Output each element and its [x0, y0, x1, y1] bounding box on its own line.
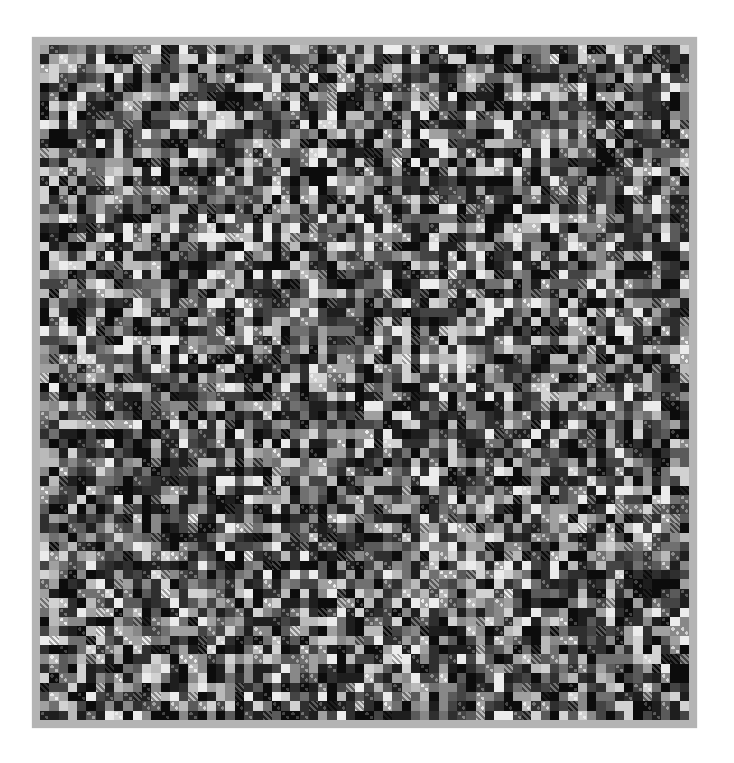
quilt-patch [513, 542, 522, 551]
quilt-patch [568, 73, 577, 82]
quilt-patch [49, 233, 58, 242]
quilt-patch [402, 411, 411, 420]
quilt-patch [485, 373, 494, 382]
quilt-patch [179, 439, 188, 448]
quilt-patch [392, 345, 401, 354]
quilt-patch [170, 83, 179, 92]
quilt-patch [327, 317, 336, 326]
quilt-patch [68, 411, 77, 420]
quilt-patch [652, 373, 661, 382]
quilt-patch [374, 345, 383, 354]
quilt-patch [643, 692, 652, 701]
quilt-patch [541, 392, 550, 401]
quilt-patch [105, 523, 114, 532]
quilt-patch [96, 139, 105, 148]
quilt-patch [643, 298, 652, 307]
quilt-patch [411, 186, 420, 195]
quilt-patch [420, 308, 429, 317]
quilt-patch [661, 139, 670, 148]
quilt-patch [383, 111, 392, 120]
quilt-patch [392, 411, 401, 420]
quilt-patch [606, 579, 615, 588]
quilt-patch [392, 608, 401, 617]
quilt-patch [59, 167, 68, 176]
quilt-patch [606, 495, 615, 504]
quilt-patch [383, 289, 392, 298]
quilt-patch [448, 336, 457, 345]
quilt-patch [272, 551, 281, 560]
quilt-patch [439, 636, 448, 645]
quilt-patch [643, 429, 652, 438]
quilt-patch [429, 523, 438, 532]
quilt-patch [670, 636, 679, 645]
quilt-patch [170, 101, 179, 110]
quilt-patch [114, 570, 123, 579]
quilt-patch [40, 420, 49, 429]
quilt-patch [448, 579, 457, 588]
quilt-patch [253, 392, 262, 401]
quilt-patch [624, 383, 633, 392]
quilt-patch [263, 373, 272, 382]
quilt-patch [429, 701, 438, 710]
quilt-patch [86, 317, 95, 326]
quilt-patch [207, 608, 216, 617]
quilt-patch [392, 579, 401, 588]
quilt-patch [466, 186, 475, 195]
quilt-patch [402, 279, 411, 288]
quilt-patch [568, 664, 577, 673]
quilt-patch [225, 458, 234, 467]
quilt-patch [123, 636, 132, 645]
quilt-patch [541, 598, 550, 607]
quilt-patch [77, 214, 86, 223]
quilt-patch [402, 673, 411, 682]
quilt-patch [485, 401, 494, 410]
quilt-patch [392, 54, 401, 63]
quilt-patch [383, 120, 392, 129]
quilt-patch [568, 64, 577, 73]
quilt-patch [559, 383, 568, 392]
quilt-patch [346, 64, 355, 73]
quilt-patch [170, 233, 179, 242]
quilt-patch [568, 129, 577, 138]
quilt-patch [466, 242, 475, 251]
quilt-patch [587, 664, 596, 673]
quilt-patch [123, 92, 132, 101]
quilt-patch [133, 148, 142, 157]
quilt-patch [179, 270, 188, 279]
quilt-patch [587, 354, 596, 363]
quilt-patch [522, 495, 531, 504]
quilt-patch [161, 514, 170, 523]
quilt-patch [263, 195, 272, 204]
quilt-patch [559, 458, 568, 467]
quilt-patch [188, 167, 197, 176]
quilt-patch [59, 139, 68, 148]
quilt-patch [457, 242, 466, 251]
quilt-patch [337, 336, 346, 345]
quilt-patch [476, 223, 485, 232]
quilt-patch [68, 608, 77, 617]
quilt-patch [550, 298, 559, 307]
quilt-patch [309, 476, 318, 485]
quilt-patch [568, 383, 577, 392]
quilt-patch [587, 54, 596, 63]
quilt-patch [309, 411, 318, 420]
quilt-patch [207, 214, 216, 223]
quilt-patch [355, 673, 364, 682]
quilt-patch [420, 214, 429, 223]
quilt-patch [383, 392, 392, 401]
quilt-patch [290, 186, 299, 195]
quilt-patch [263, 45, 272, 54]
quilt-patch [624, 636, 633, 645]
quilt-patch [615, 139, 624, 148]
quilt-patch [383, 101, 392, 110]
quilt-patch [68, 467, 77, 476]
quilt-patch [643, 186, 652, 195]
quilt-patch [374, 589, 383, 598]
quilt-patch [402, 598, 411, 607]
quilt-patch [142, 636, 151, 645]
quilt-patch [105, 711, 114, 720]
quilt-patch [179, 692, 188, 701]
quilt-patch [216, 701, 225, 710]
quilt-patch [49, 54, 58, 63]
quilt-patch [235, 542, 244, 551]
